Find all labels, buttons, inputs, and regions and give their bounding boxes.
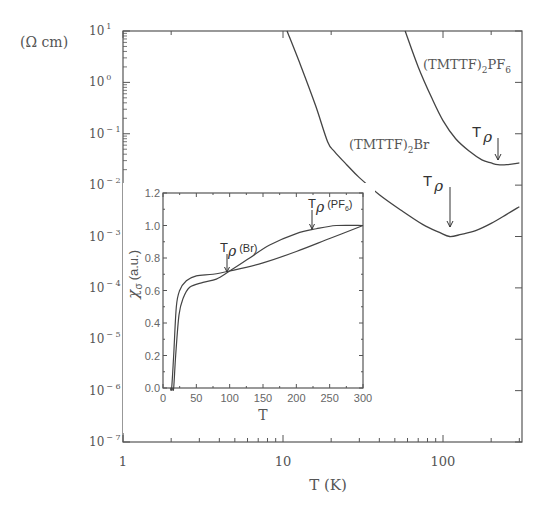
y-axis-unit-label: (Ω cm) (20, 34, 68, 50)
inset-y-tick-label: 0.0 (145, 382, 160, 394)
inset-x-tick-label: 200 (287, 392, 305, 404)
y-tick-label: 10− 7 (89, 433, 121, 449)
y-tick-label: 101 (89, 22, 111, 38)
inset-y-tick-label: 0.4 (145, 317, 160, 329)
inset-y-tick-label: 0.6 (145, 285, 160, 297)
y-tick-label: 10− 3 (89, 228, 121, 244)
inset-y-tick-label: 1.0 (145, 220, 160, 232)
y-tick-label: 10− 4 (89, 279, 121, 295)
x-tick-label: 100 (431, 454, 456, 469)
inset-x-tick-label: 150 (254, 392, 272, 404)
y-tick-label: 10− 1 (89, 125, 121, 141)
inset-x-axis-label: T (258, 407, 268, 423)
y-tick-label: 10− 2 (89, 176, 121, 192)
x-tick-label: 10 (275, 454, 292, 469)
y-tick-label: 10− 5 (89, 330, 121, 346)
inset-y-tick-label: 1.2 (145, 187, 160, 199)
y-tick-label: 10− 6 (89, 382, 121, 398)
inset-x-tick-label: 50 (190, 392, 202, 404)
inset-x-tick-label: 100 (220, 392, 238, 404)
inset-y-tick-label: 0.8 (145, 252, 160, 264)
inset-x-tick-label: 250 (320, 392, 338, 404)
inset-chart: 0501001502002503000.00.20.40.60.81.01.2T… (123, 183, 375, 433)
label-tmttf2-br: (TMTTF)2Br (349, 137, 430, 155)
chart-figure: 11010010110010− 110− 210− 310− 410− 510−… (0, 0, 545, 510)
y-tick-label: 100 (89, 73, 111, 89)
trho-br-annotation: Tρ (423, 172, 443, 195)
inset-y-tick-label: 0.2 (145, 350, 160, 362)
label-tmttf2-pf6: (TMTTF)2PF6 (423, 57, 511, 75)
trho-pf6-annotation: Tρ (472, 123, 492, 146)
inset-x-tick-label: 0 (160, 392, 166, 404)
inset-x-tick-label: 300 (354, 392, 372, 404)
x-tick-label: 1 (119, 454, 127, 469)
x-axis-label: T (K) (309, 476, 347, 494)
